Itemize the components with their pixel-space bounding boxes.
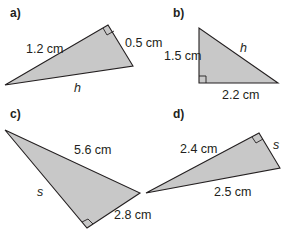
side-label-d-leg1: 2.4 cm [180,142,218,156]
side-label-c-leg1: 2.8 cm [114,208,152,222]
side-label-b-leg1: 1.5 cm [164,49,202,63]
side-label-a-leg1: 1.2 cm [26,42,64,56]
side-label-d-hyp: 2.5 cm [214,185,252,199]
side-label-a-hyp: h [74,81,81,95]
triangle-c: c) 5.6 cm 2.8 cm s [5,107,152,228]
triangle-a-shape [5,25,133,85]
triangle-b-shape [199,28,278,83]
side-label-b-hyp: h [240,41,247,55]
side-label-c-hyp: 5.6 cm [74,143,112,157]
triangle-d: d) 2.4 cm 2.5 cm s [146,107,280,199]
side-label-a-leg2: 0.5 cm [125,36,163,50]
side-label-d-leg2: s [273,138,279,152]
triangle-a: a) 1.2 cm 0.5 cm h [5,6,163,95]
side-label-b-leg2: 2.2 cm [222,88,260,102]
triangle-b: b) 1.5 cm 2.2 cm h [164,6,278,102]
side-label-c-leg2: s [37,185,43,199]
part-label-c: c) [10,107,21,121]
part-label-a: a) [10,6,21,20]
part-label-d: d) [173,107,184,121]
right-triangles-diagram: a) 1.2 cm 0.5 cm h b) 1.5 cm 2.2 cm h c)… [0,0,281,231]
part-label-b: b) [173,6,184,20]
